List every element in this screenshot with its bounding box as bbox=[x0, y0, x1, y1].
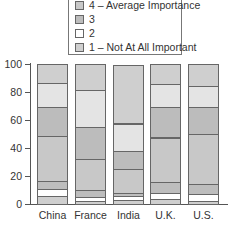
bar-segment bbox=[188, 134, 219, 185]
y-tick-label: 20 bbox=[2, 170, 22, 182]
bar-segment bbox=[37, 83, 68, 109]
bar-segment bbox=[113, 124, 144, 152]
bar-india bbox=[113, 0, 144, 227]
bar-segment bbox=[188, 184, 219, 195]
bar-china bbox=[37, 0, 68, 227]
bar-segment bbox=[37, 196, 68, 205]
bar-uk bbox=[150, 0, 181, 227]
x-tick-label: U.S. bbox=[179, 209, 229, 221]
bar-segment bbox=[150, 107, 181, 139]
bar-segment bbox=[75, 127, 106, 160]
bar-segment bbox=[37, 136, 68, 182]
y-tick-label: 100 bbox=[2, 58, 22, 70]
y-axis-line bbox=[30, 63, 31, 205]
chart-root: 4 – Average Importance321 – Not At All I… bbox=[0, 0, 233, 227]
bar-segment bbox=[188, 64, 219, 87]
bar-segment bbox=[188, 86, 219, 108]
bar-segment bbox=[37, 107, 68, 137]
bar-segment bbox=[113, 65, 144, 125]
bar-segment bbox=[75, 159, 106, 191]
bar-segment bbox=[75, 90, 106, 128]
bar-france bbox=[75, 0, 106, 227]
bar-segment bbox=[188, 194, 219, 202]
bar-segment bbox=[150, 64, 181, 85]
bar-segment bbox=[150, 84, 181, 107]
bar-segment bbox=[75, 190, 106, 198]
bar-segment bbox=[37, 189, 68, 196]
bar-segment bbox=[75, 64, 106, 91]
bar-segment bbox=[150, 182, 181, 194]
y-tick-label: 40 bbox=[2, 142, 22, 154]
y-tick-label: 80 bbox=[2, 86, 22, 98]
bar-segment bbox=[37, 181, 68, 190]
bar-segment bbox=[113, 169, 144, 194]
bar-segment bbox=[37, 64, 68, 84]
bar-segment bbox=[188, 107, 219, 135]
bar-segment bbox=[113, 151, 144, 170]
bar-us bbox=[188, 0, 219, 227]
bar-segment bbox=[150, 193, 181, 200]
y-tick-label: 60 bbox=[2, 114, 22, 126]
y-tick-label: 0 bbox=[2, 198, 22, 210]
bar-segment bbox=[150, 138, 181, 183]
